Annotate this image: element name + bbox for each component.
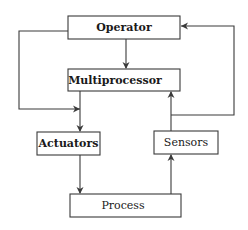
node-label: Operator: [96, 21, 152, 34]
node-process: Process: [70, 194, 181, 217]
node-label: Multiprocessor: [68, 74, 162, 87]
node-multiprocessor: Multiprocessor: [68, 69, 180, 91]
control-loop-diagram: Operator Multiprocessor Actuators Sensor…: [0, 0, 248, 230]
edges: [19, 23, 234, 195]
node-label: Actuators: [38, 137, 99, 150]
node-sensors: Sensors: [154, 131, 218, 154]
node-label: Sensors: [164, 136, 209, 149]
node-label: Process: [101, 199, 145, 212]
node-operator: Operator: [68, 16, 180, 39]
node-actuators: Actuators: [37, 132, 100, 155]
